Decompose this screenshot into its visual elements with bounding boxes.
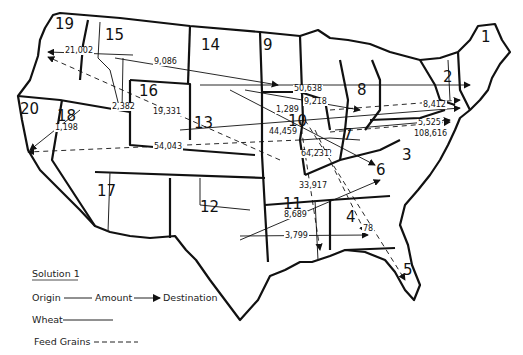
legend-title: Solution 1 (32, 268, 80, 279)
flow-amount: 64,231 (300, 150, 330, 158)
flow-amount: 8,412 (422, 101, 447, 109)
legend-destination: Destination (163, 292, 218, 303)
flow-amount: 78 (362, 225, 374, 233)
flow-amount: 5,525 (417, 119, 442, 127)
region-label-17: 17 (97, 184, 116, 199)
region-label-6: 6 (376, 163, 386, 178)
region-label-5: 5 (403, 263, 413, 278)
flow-amount: 1,289 (275, 106, 300, 114)
region-label-20: 20 (20, 102, 39, 117)
flow-amount: 54,043 (153, 143, 183, 151)
region-label-7: 7 (343, 128, 353, 143)
flow-amount: 9,218 (303, 98, 328, 106)
region-label-18: 18 (57, 109, 76, 124)
flow-amount: 3,799 (284, 232, 309, 240)
region-label-12: 12 (200, 200, 219, 215)
region-label-1: 1 (481, 30, 491, 45)
legend-feed-grains: Feed Grains (34, 336, 90, 347)
region-label-9: 9 (263, 38, 273, 53)
flow-amount: 33,917 (298, 182, 328, 190)
region-label-15: 15 (105, 28, 124, 43)
flow-amount: 9,086 (153, 58, 178, 66)
legend-wheat: Wheat (32, 314, 63, 325)
flow-amount: 44,459 (268, 128, 298, 136)
flow-amount: 2,382 (111, 103, 136, 111)
region-label-3: 3 (402, 148, 412, 163)
flow-amount: 8,689 (283, 211, 308, 219)
region-label-8: 8 (357, 83, 367, 98)
flow-amount: 50,638 (293, 85, 323, 93)
region-label-19: 19 (55, 17, 74, 32)
region-label-14: 14 (201, 38, 220, 53)
flow-amount: 21,002 (64, 47, 94, 55)
region-label-2: 2 (443, 70, 453, 85)
map-figure: 1234567891011121314151617181920 21,0029,… (0, 0, 523, 355)
us-outline (18, 13, 510, 320)
legend-origin: Origin (32, 292, 61, 303)
flow-amount: 1,198 (54, 124, 79, 132)
region-label-16: 16 (139, 84, 158, 99)
flow-amount: 108,616 (413, 130, 448, 138)
region-label-4: 4 (346, 210, 356, 225)
flow-amount: 19,331 (152, 108, 182, 116)
region-label-13: 13 (194, 116, 213, 131)
legend-amount: Amount (95, 292, 132, 303)
